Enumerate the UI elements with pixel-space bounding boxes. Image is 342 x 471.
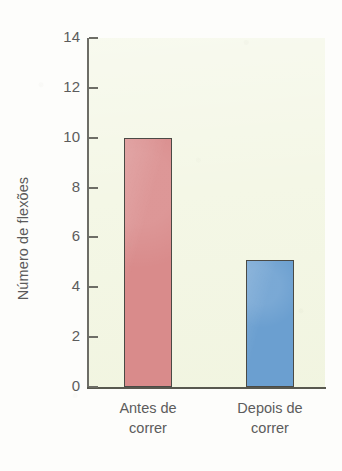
- y-tick-mark-4: [89, 286, 98, 288]
- y-tick-label-4: 4: [44, 277, 80, 294]
- y-tick-mark-12: [89, 87, 98, 89]
- y-axis-title: Número de flexões: [10, 64, 36, 413]
- y-tick-mark-10: [89, 137, 98, 139]
- y-tick-label-14: 14: [44, 28, 80, 45]
- y-tick-mark-8: [89, 187, 98, 189]
- x-axis-line: [87, 387, 326, 389]
- x-axis-label-antes-de-correr: Antes decorrer: [88, 398, 208, 438]
- y-tick-mark-6: [89, 236, 98, 238]
- bar-chart-figure: Número de flexões 02468101214 Antes deco…: [0, 0, 342, 471]
- y-tick-label-2: 2: [44, 327, 80, 344]
- x-axis-label-line-2: correr: [88, 418, 208, 438]
- x-axis-label-line-1: Antes de: [119, 400, 176, 416]
- y-tick-label-8: 8: [44, 178, 80, 195]
- bar-antes-de-correr: [124, 138, 172, 387]
- y-tick-mark-0: [89, 386, 98, 388]
- bar-face: [125, 139, 171, 386]
- x-axis-label-line-2: correr: [210, 418, 330, 438]
- x-axis-label-depois-de-correr: Depois decorrer: [210, 398, 330, 438]
- y-tick-label-10: 10: [44, 128, 80, 145]
- bar-depois-de-correr: [246, 260, 294, 387]
- y-tick-mark-2: [89, 336, 98, 338]
- y-tick-label-0: 0: [44, 377, 80, 394]
- y-tick-mark-14: [89, 37, 98, 39]
- y-tick-label-6: 6: [44, 227, 80, 244]
- bar-face: [247, 261, 293, 386]
- y-tick-label-12: 12: [44, 78, 80, 95]
- x-axis-label-line-1: Depois de: [237, 400, 302, 416]
